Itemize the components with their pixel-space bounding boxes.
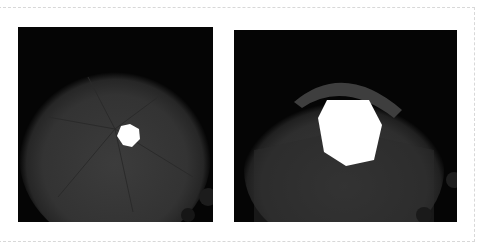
lens-diaphragm-large-illustration: [234, 30, 457, 222]
aperture-photo-large: [234, 30, 457, 222]
aperture-photo-small: [18, 27, 213, 222]
lens-diaphragm-small-illustration: [18, 27, 213, 222]
